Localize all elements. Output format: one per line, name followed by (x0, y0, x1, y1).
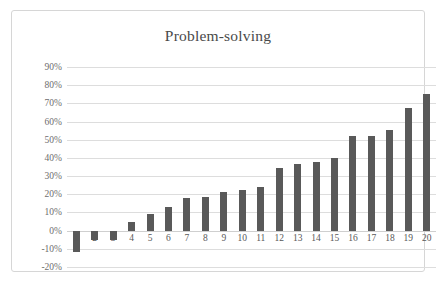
y-tick-label: 40% (45, 153, 62, 163)
x-tick-label: 16 (348, 233, 358, 243)
bar (239, 190, 246, 231)
y-tick-label: 20% (45, 189, 62, 199)
bar (257, 187, 264, 231)
y-tick-label: -10% (41, 244, 62, 254)
bar (405, 108, 412, 231)
bar (386, 130, 393, 231)
y-tick-label: 80% (45, 80, 62, 90)
gridline--20% (67, 267, 436, 268)
bar (202, 197, 209, 231)
x-tick-label: 12 (274, 233, 284, 243)
bar (294, 164, 301, 230)
x-tick-label: 5 (148, 233, 153, 243)
bar (313, 162, 320, 231)
y-tick-label: -20% (41, 262, 62, 272)
x-tick-label: 9 (221, 233, 226, 243)
y-tick-label: 30% (45, 171, 62, 181)
x-tick-label: 19 (404, 233, 414, 243)
x-axis-tick-labels: 1234567891011121314151617181920 (67, 233, 436, 247)
y-tick-label: 50% (45, 135, 62, 145)
y-tick-label: 0% (49, 226, 62, 236)
y-tick-label: 10% (45, 207, 62, 217)
bar (331, 158, 338, 231)
y-tick-label: 70% (45, 98, 62, 108)
chart-frame: Problem-solving 90%80%70%60%50%40%30%20%… (11, 10, 425, 272)
x-tick-label: 13 (293, 233, 303, 243)
x-tick-label: 6 (166, 233, 171, 243)
x-tick-label: 18 (385, 233, 395, 243)
bar (183, 198, 190, 231)
x-tick-label: 20 (422, 233, 432, 243)
bar (220, 192, 227, 231)
bar (165, 207, 172, 231)
x-tick-label: 3 (111, 233, 116, 243)
bar (276, 168, 283, 231)
x-tick-label: 15 (330, 233, 340, 243)
x-tick-label: 2 (92, 233, 97, 243)
chart-title: Problem-solving (12, 27, 424, 45)
bar (368, 136, 375, 231)
x-tick-label: 4 (129, 233, 134, 243)
y-tick-label: 60% (45, 117, 62, 127)
bar (349, 136, 356, 231)
x-tick-label: 10 (238, 233, 248, 243)
x-tick-label: 8 (203, 233, 208, 243)
x-tick-label: 17 (367, 233, 377, 243)
x-tick-label: 11 (256, 233, 265, 243)
bar (423, 94, 430, 230)
bar (147, 214, 154, 230)
y-tick-label: 90% (45, 62, 62, 72)
bar (128, 222, 135, 231)
x-tick-label: 14 (311, 233, 321, 243)
x-tick-label: 1 (74, 233, 79, 243)
x-tick-label: 7 (185, 233, 190, 243)
